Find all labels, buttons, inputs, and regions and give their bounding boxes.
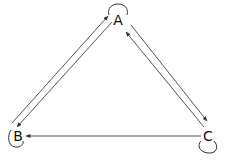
node-a-label: A: [113, 12, 123, 28]
node-b-label: B: [13, 128, 23, 144]
state-diagram: A B C: [0, 0, 231, 160]
edge-b-to-a: [12, 16, 108, 123]
edge-a-to-c: [131, 25, 207, 121]
node-c-label: C: [203, 128, 213, 144]
edge-c-to-a: [126, 32, 204, 127]
edge-a-to-b: [17, 22, 112, 127]
